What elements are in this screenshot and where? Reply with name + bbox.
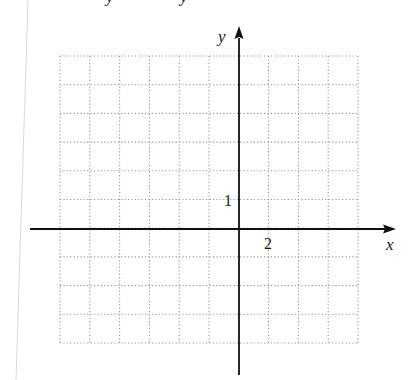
x-axis bbox=[30, 225, 396, 234]
top-text-fragment-1: y bbox=[104, 0, 114, 6]
page-edge-line bbox=[16, 0, 28, 380]
coordinate-plane: y y y x 1 2 bbox=[0, 0, 412, 380]
y-axis-label: y bbox=[216, 27, 226, 46]
top-text-fragment-2: y bbox=[178, 0, 188, 6]
x-tick-label: 2 bbox=[264, 235, 272, 252]
y-tick-label: 1 bbox=[224, 192, 232, 209]
dotted-grid bbox=[60, 56, 358, 343]
y-axis bbox=[235, 26, 244, 375]
x-axis-label: x bbox=[385, 235, 394, 254]
y-axis-arrow-icon bbox=[235, 26, 244, 39]
